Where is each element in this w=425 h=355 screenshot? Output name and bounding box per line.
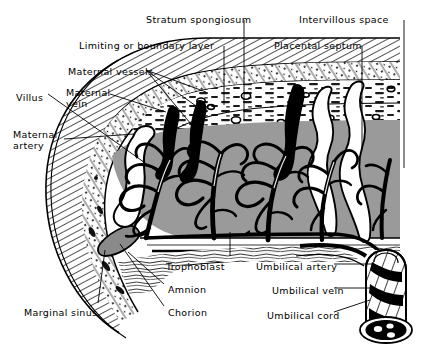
label-limiting-layer: Limiting or boundary layer bbox=[79, 40, 214, 51]
label-maternal-vein: Maternal vein bbox=[66, 88, 111, 109]
label-villus: Villus bbox=[16, 92, 43, 103]
label-stratum-spongiosum: Stratum spongiosum bbox=[146, 14, 251, 25]
label-umbilical-vein: Umbilical vein bbox=[272, 285, 344, 296]
label-intervillous-space: Intervillous space bbox=[299, 14, 389, 25]
label-placental-septum: Placental septum bbox=[274, 40, 362, 51]
label-chorion: Chorion bbox=[168, 307, 207, 318]
label-umbilical-artery: Umbilical artery bbox=[256, 261, 337, 272]
placenta-illustration bbox=[0, 0, 425, 355]
label-trophoblast: Trophoblast bbox=[166, 261, 225, 272]
label-maternal-vessels: Maternal vessels bbox=[68, 66, 153, 77]
label-marginal-sinus: Marginal sinus bbox=[24, 307, 97, 318]
cord-cut-end bbox=[360, 317, 412, 343]
label-amnion: Amnion bbox=[168, 284, 206, 295]
placenta-diagram-figure: Stratum spongiosum Intervillous space Li… bbox=[0, 0, 425, 355]
label-umbilical-cord: Umbilical cord bbox=[267, 310, 340, 321]
label-maternal-artery: Maternal artery bbox=[13, 130, 58, 151]
